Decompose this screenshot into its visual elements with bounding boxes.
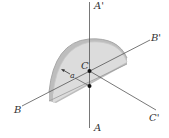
label-b-prime: B' [150,32,161,43]
label-radius-a: a [70,71,75,80]
label-c: C [81,60,89,71]
label-a-prime: A' [93,0,104,11]
diagram: A' A B' B C' C a [0,0,169,138]
label-b: B [13,104,21,115]
center-point [88,84,92,88]
half-disk-figure: A' A B' B C' C a [0,0,169,138]
label-c-prime: C' [149,112,159,123]
axis-c [90,71,157,110]
label-a: A [93,122,101,133]
